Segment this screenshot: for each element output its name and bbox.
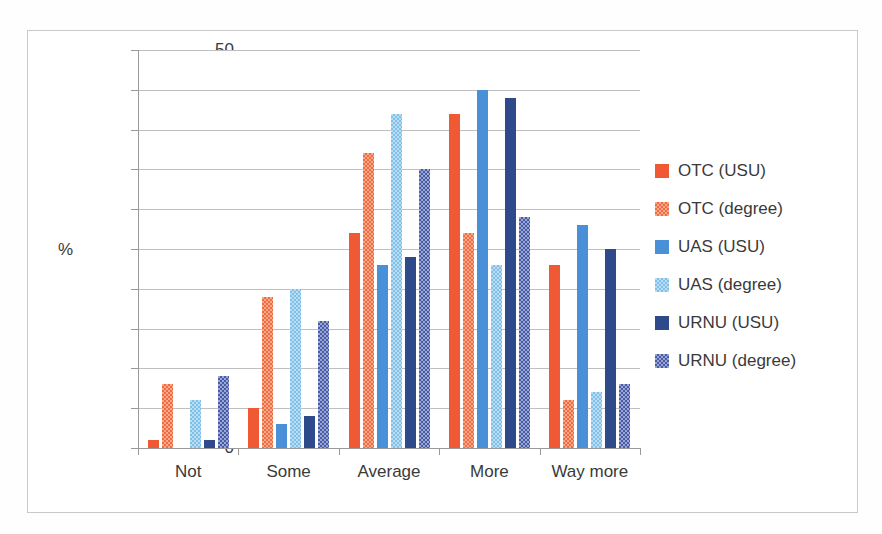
legend-label: UAS (USU) [678, 237, 765, 257]
legend-item[interactable]: URNU (USU) [655, 304, 796, 342]
bar[interactable] [519, 217, 530, 448]
legend-label: OTC (USU) [678, 161, 766, 181]
y-tick-mark [131, 329, 138, 330]
bar-group [138, 50, 238, 448]
bar-group-bars [138, 50, 238, 448]
bar-groups [138, 50, 640, 448]
legend-swatch-icon [655, 278, 669, 292]
bar[interactable] [463, 233, 474, 448]
bar[interactable] [162, 384, 173, 448]
x-tick-label: More [439, 462, 539, 482]
legend-swatch-icon [655, 164, 669, 178]
bar[interactable] [491, 265, 502, 448]
legend-swatch-icon [655, 202, 669, 216]
y-tick-mark [131, 289, 138, 290]
bar[interactable] [419, 169, 430, 448]
legend-item[interactable]: URNU (degree) [655, 342, 796, 380]
bar[interactable] [349, 233, 360, 448]
y-tick-mark [131, 169, 138, 170]
bar[interactable] [363, 153, 374, 448]
bar[interactable] [304, 416, 315, 448]
bar-group [238, 50, 338, 448]
y-tick-mark [131, 130, 138, 131]
y-tick-mark [131, 209, 138, 210]
bar[interactable] [290, 289, 301, 448]
bar[interactable] [619, 384, 630, 448]
legend-item[interactable]: OTC (USU) [655, 152, 796, 190]
legend-swatch-icon [655, 240, 669, 254]
bar[interactable] [563, 400, 574, 448]
legend-label: OTC (degree) [678, 199, 783, 219]
x-tick-mark [439, 448, 440, 455]
plot-area [138, 50, 640, 448]
bar[interactable] [505, 98, 516, 448]
bar-group-bars [339, 50, 439, 448]
x-tick-label: Some [238, 462, 338, 482]
bar-group [540, 50, 640, 448]
chart-legend: OTC (USU)OTC (degree)UAS (USU)UAS (degre… [655, 152, 796, 380]
x-tick-mark [238, 448, 239, 455]
bar[interactable] [190, 400, 201, 448]
x-tick-mark [138, 448, 139, 455]
bar[interactable] [148, 440, 159, 448]
bar[interactable] [318, 321, 329, 448]
bar[interactable] [276, 424, 287, 448]
bar[interactable] [405, 257, 416, 448]
bar-group-bars [238, 50, 338, 448]
x-tick-label: Average [339, 462, 439, 482]
legend-swatch-icon [655, 316, 669, 330]
legend-item[interactable]: OTC (degree) [655, 190, 796, 228]
bar[interactable] [204, 440, 215, 448]
bar[interactable] [377, 265, 388, 448]
x-tick-label: Way more [540, 462, 640, 482]
legend-swatch-icon [655, 354, 669, 368]
legend-label: URNU (degree) [678, 351, 796, 371]
y-tick-mark [131, 448, 138, 449]
y-tick-mark [131, 368, 138, 369]
bar-group [439, 50, 539, 448]
bar[interactable] [248, 408, 259, 448]
bar[interactable] [605, 249, 616, 448]
y-tick-mark [131, 408, 138, 409]
bar-group-bars [540, 50, 640, 448]
bar[interactable] [549, 265, 560, 448]
x-tick-mark [339, 448, 340, 455]
x-tick-mark [640, 448, 641, 455]
x-axis-labels: NotSomeAverageMoreWay more [138, 462, 640, 482]
bar[interactable] [262, 297, 273, 448]
bar[interactable] [218, 376, 229, 448]
bar-group-bars [439, 50, 539, 448]
x-tick-label: Not [138, 462, 238, 482]
legend-item[interactable]: UAS (USU) [655, 228, 796, 266]
chart-screenshot: % 50454035302520151050 NotSomeAverageMor… [0, 0, 882, 534]
bar-group [339, 50, 439, 448]
gridline [138, 448, 640, 449]
y-tick-mark [131, 50, 138, 51]
bar[interactable] [577, 225, 588, 448]
legend-label: UAS (degree) [678, 275, 782, 295]
legend-item[interactable]: UAS (degree) [655, 266, 796, 304]
bar[interactable] [591, 392, 602, 448]
bar[interactable] [449, 114, 460, 448]
y-axis-label: % [58, 240, 73, 260]
legend-label: URNU (USU) [678, 313, 779, 333]
x-tick-mark [540, 448, 541, 455]
bar[interactable] [477, 90, 488, 448]
y-tick-mark [131, 90, 138, 91]
bar[interactable] [391, 114, 402, 448]
y-tick-mark [131, 249, 138, 250]
